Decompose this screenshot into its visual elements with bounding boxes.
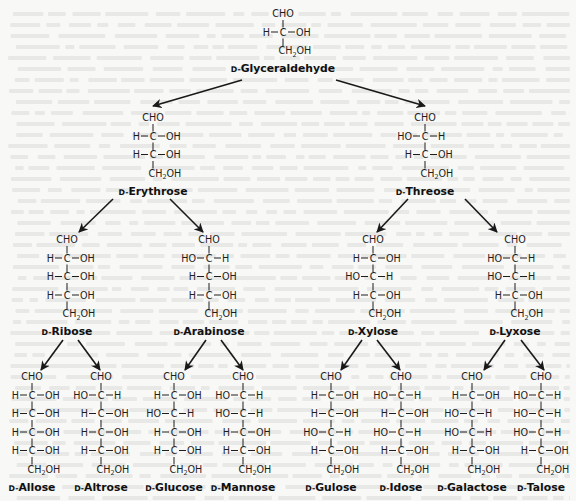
stereocenter-carbon: C [64,253,71,264]
derivation-arrow-glyceraldehyde-to-erythrose [153,80,242,106]
derivation-arrow-erythrose-to-arabinose [170,199,203,232]
molecule-xylose: CHOCHOHCHOHCHOHCH2OHD-Xylose [345,234,401,338]
hydrogen-left: H [133,131,140,142]
stereocenter-carbon: C [398,445,405,456]
stereocenter-carbon: C [328,408,335,419]
aldehyde-group: CHO [21,371,43,382]
hydrogen-left: H [381,445,388,456]
hydroxyl-right: OH [414,408,429,419]
hydroxyl-right: OH [528,290,543,301]
hydroxyl-right: OH [438,149,453,160]
molecule-erythrose: CHOCHOHCHOHCH2OHD-Erythrose [119,112,188,198]
molecule-mannose: CHOCHOHCHOHCHOHCHOHCH2OHD-Mannose [211,371,275,494]
hydrogen-right: H [528,271,535,282]
hydroxyl-left: HO [303,427,318,438]
aldose-family-diagram: CHOCHOHCH2OHD-GlyceraldehydeCHOCHOHCHOHC… [0,0,576,501]
stereocenter-carbon: C [469,445,476,456]
hydroxyl-right: OH [222,271,237,282]
stereocenter-carbon: C [171,427,178,438]
stereocenter-carbon: C [64,271,71,282]
hydroxyl-right: OH [187,427,202,438]
aldehyde-group: CHO [272,8,294,19]
hydrogen-left: H [311,408,318,419]
hydrogen-right: H [187,408,194,419]
stereocenter-carbon: C [422,149,429,160]
hydroxyl-right: OH [485,390,500,401]
hydroxyl-right: OH [187,445,202,456]
hydroxyl-right: OH [344,445,359,456]
sugar-name-label: D-Allose [9,481,56,494]
stereocenter-carbon: C [206,290,213,301]
stereocenter-carbon: C [98,427,105,438]
stereocenter-carbon: C [280,27,287,38]
sugar-name-label: D-Xylose [348,325,398,338]
hydrogen-left: H [223,445,230,456]
hydrogen-right: H [485,427,492,438]
hydrogen-right: H [256,408,263,419]
hydroxyl-right: OH [45,427,60,438]
molecule-idose: CHOCHOHCHOHCHOHCHOHCH2OHD-Idose [373,371,429,494]
stereocenter-carbon: C [98,390,105,401]
hydrogen-left: H [12,445,19,456]
aldehyde-group: CHO [362,234,384,245]
stereocenter-carbon: C [29,427,36,438]
hydroxymethyl-group: CH2OH [511,308,544,322]
hydrogen-left: H [495,290,502,301]
molecule-ribose: CHOCHOHCHOHCHOHCH2OHD-Ribose [42,234,96,338]
molecule-arabinose: CHOCHOHCHOHCHOHCH2OHD-Arabinose [173,234,244,338]
derivation-arrow-arabinose-to-glucose [185,340,206,370]
hydrogen-left: H [47,271,54,282]
hydrogen-right: H [554,408,561,419]
sugar-name-label: D-Gulose [305,481,356,494]
sugar-name-label: D-Lyxose [489,325,540,338]
hydroxyl-right: OH [554,445,569,456]
molecule-lyxose: CHOCHOHCHOHCHOHCH2OHD-Lyxose [487,234,543,338]
molecule-threose: CHOCHOHCHOHCH2OHD-Threose [396,112,455,198]
hydroxyl-left: HO [513,408,528,419]
stereocenter-carbon: C [538,390,545,401]
hydroxymethyl-group: CH2OH [170,464,203,478]
sugar-name-label: D-Threose [396,185,455,198]
hydroxymethyl-group: CH2OH [369,308,402,322]
hydroxymethyl-group: CH2OH [239,464,272,478]
hydroxymethyl-group: CH2OH [28,464,61,478]
hydrogen-left: H [81,445,88,456]
hydroxyl-right: OH [114,427,129,438]
sugar-name-label: D-Mannose [211,481,275,494]
hydroxyl-right: OH [114,408,129,419]
hydroxyl-right: OH [256,445,271,456]
hydrogen-left: H [521,445,528,456]
hydrogen-left: H [353,253,360,264]
hydroxyl-right: OH [80,290,95,301]
hydrogen-left: H [133,149,140,160]
stereocenter-carbon: C [328,390,335,401]
hydroxyl-right: OH [114,445,129,456]
hydrogen-left: H [12,390,19,401]
hydroxymethyl-group: CH2OH [279,45,312,59]
hydroxyl-left: HO [373,427,388,438]
hydroxyl-right: OH [80,253,95,264]
stereocenter-carbon: C [398,427,405,438]
hydrogen-right: H [554,390,561,401]
hydroxyl-left: HO [215,408,230,419]
hydrogen-left: H [154,427,161,438]
hydrogen-right: H [554,427,561,438]
stereocenter-carbon: C [469,427,476,438]
derivation-arrow-xylose-to-gulose [341,340,362,370]
hydroxyl-right: OH [344,390,359,401]
sugar-name-label: D-Glyceraldehyde [231,62,335,75]
hydrogen-right: H [414,390,421,401]
hydroxymethyl-group: CH2OH [63,308,96,322]
hydroxymethyl-group: CH2OH [327,464,360,478]
hydroxyl-left: HO [487,253,502,264]
hydrogen-right: H [438,131,445,142]
hydrogen-left: H [47,253,54,264]
hydroxyl-left: HO [487,271,502,282]
stereocenter-carbon: C [370,290,377,301]
stereocenter-carbon: C [512,253,519,264]
stereocenter-carbon: C [206,271,213,282]
hydroxymethyl-group: CH2OH [421,168,454,182]
sugar-name-label: D-Talose [517,481,565,494]
hydrogen-left: H [452,390,459,401]
molecule-altrose: CHOCHOHCHOHCHOHCHOHCH2OHD-Altrose [73,371,129,494]
